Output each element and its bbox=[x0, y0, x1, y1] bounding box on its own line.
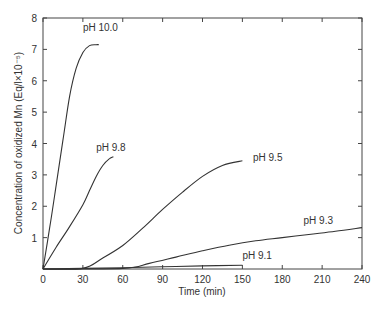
y-tick-label: 5 bbox=[31, 107, 37, 118]
series-label: pH 9.5 bbox=[253, 152, 283, 163]
y-tick-label: 6 bbox=[31, 76, 37, 87]
series-label: pH 10.0 bbox=[83, 22, 118, 33]
x-axis-ticks: 0306090120150180210240 bbox=[40, 18, 371, 285]
x-tick-label: 90 bbox=[157, 274, 169, 285]
series-line bbox=[43, 161, 242, 270]
x-tick-label: 240 bbox=[354, 274, 371, 285]
series-group bbox=[43, 45, 362, 270]
x-tick-label: 60 bbox=[117, 274, 129, 285]
x-tick-label: 210 bbox=[314, 274, 331, 285]
y-tick-label: 3 bbox=[31, 170, 37, 181]
series-label: pH 9.1 bbox=[242, 250, 272, 261]
series-label: pH 9.8 bbox=[96, 142, 126, 153]
y-tick-label: 4 bbox=[31, 139, 37, 150]
y-axis-label: Concentration of oxidized Mn (Eq/l×10⁻⁵) bbox=[13, 52, 24, 234]
x-tick-label: 30 bbox=[77, 274, 89, 285]
x-tick-label: 120 bbox=[194, 274, 211, 285]
y-tick-label: 2 bbox=[31, 201, 37, 212]
series-line bbox=[43, 45, 99, 269]
y-tick-label: 8 bbox=[31, 13, 37, 24]
line-chart: 0306090120150180210240 12345678 pH 10.0p… bbox=[0, 0, 386, 311]
y-tick-label: 7 bbox=[31, 44, 37, 55]
series-line bbox=[43, 228, 362, 269]
series-labels: pH 10.0pH 9.8pH 9.5pH 9.3pH 9.1 bbox=[83, 22, 334, 261]
series-line bbox=[43, 157, 113, 269]
x-tick-label: 180 bbox=[274, 274, 291, 285]
plot-frame bbox=[43, 18, 362, 269]
x-axis-label: Time (min) bbox=[178, 286, 225, 297]
y-tick-label: 1 bbox=[31, 233, 37, 244]
series-label: pH 9.3 bbox=[304, 215, 334, 226]
x-tick-label: 0 bbox=[40, 274, 46, 285]
x-tick-label: 150 bbox=[234, 274, 251, 285]
